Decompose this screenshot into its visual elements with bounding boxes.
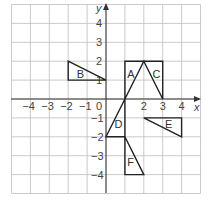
x-axis-label: x <box>193 101 200 113</box>
y-tick-label: −1 <box>91 112 104 124</box>
y-axis-arrow-icon <box>103 3 109 10</box>
x-tick-label: −2 <box>60 100 73 112</box>
y-tick-label: 4 <box>96 17 102 29</box>
x-tick-label: −4 <box>22 100 35 112</box>
x-tick-label: 2 <box>141 100 147 112</box>
axes: x y 0 <box>11 2 201 193</box>
y-tick-label: −3 <box>91 150 104 162</box>
triangle-label: E <box>165 118 172 130</box>
origin-label: 0 <box>96 100 102 112</box>
y-tick-label: 2 <box>96 55 102 67</box>
coordinate-grid: x y 0 −4−3−2−12344321−1−2−3−4 ABCDEF <box>0 0 208 200</box>
triangle-label: B <box>77 68 84 80</box>
x-tick-label: −3 <box>41 100 54 112</box>
triangle-label: D <box>115 118 123 130</box>
x-tick-label: 3 <box>160 100 166 112</box>
y-tick-label: −2 <box>91 131 104 143</box>
triangle-label: C <box>152 68 160 80</box>
y-tick-label: 3 <box>96 36 102 48</box>
y-axis-label: y <box>95 2 103 14</box>
triangle-label: F <box>127 156 134 168</box>
y-tick-label: −4 <box>91 169 104 181</box>
x-tick-label: −1 <box>79 100 92 112</box>
triangle-label: A <box>127 68 135 80</box>
x-tick-label: 4 <box>179 100 185 112</box>
